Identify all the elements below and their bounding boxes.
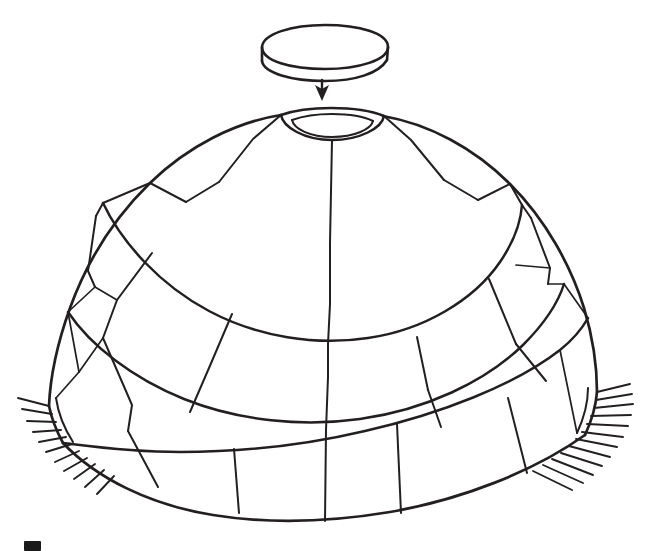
page-edge-mark — [24, 541, 41, 551]
key-block — [262, 24, 388, 83]
joint-base-center — [325, 430, 326, 521]
igloo-diagram: Igloo with final key block being lowered… — [0, 0, 647, 551]
hatch-right-4 — [591, 415, 631, 416]
hatch-left-3 — [27, 421, 56, 422]
igloo-illustration: Igloo with final key block being lowered… — [0, 0, 647, 551]
key-block-right-edge — [387, 47, 388, 60]
